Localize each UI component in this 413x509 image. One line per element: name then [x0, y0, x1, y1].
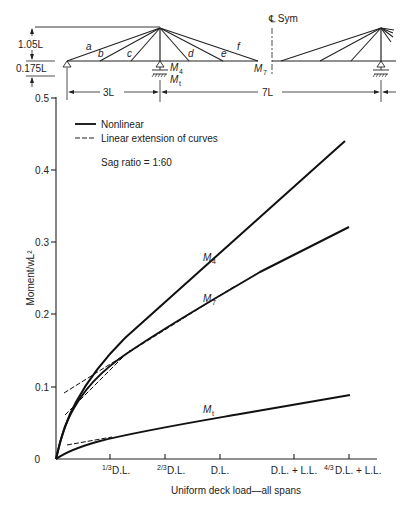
ytick-0: 0: [34, 454, 40, 465]
x-axis-label: Uniform deck load—all spans: [171, 485, 301, 496]
svg-text:7: 7: [263, 69, 267, 76]
svg-text:M: M: [170, 74, 179, 85]
svg-text:M: M: [170, 62, 179, 73]
ytick-0.5: 0.5: [35, 93, 49, 104]
figure-canvas: 1.05L 0.175L 3L 7L ℄ Sym a b c d e f M 4…: [0, 0, 413, 509]
sag-ratio-note: Sag ratio = 1:60: [101, 157, 172, 168]
span-main-label: 7L: [262, 87, 274, 98]
ytick-0.4: 0.4: [35, 165, 49, 176]
xtick-1-3-dl: 1/3 D.L.: [102, 464, 130, 476]
dim-deck-offset-label: 0.175L: [16, 63, 47, 74]
svg-text:D.L.: D.L.: [167, 465, 185, 476]
svg-text:7: 7: [212, 299, 216, 306]
xtick-4-3-dl-ll: 4/3 D.L. + L.L.: [324, 464, 381, 476]
svg-text:4: 4: [212, 258, 216, 265]
svg-text:D.L.: D.L.: [112, 465, 130, 476]
cable-b-label: b: [98, 48, 104, 59]
cable-c-label: c: [127, 48, 132, 59]
ytick-0.2: 0.2: [35, 309, 49, 320]
svg-text:M: M: [254, 63, 263, 74]
m4-curve: [56, 141, 345, 459]
cable-f-label: f: [237, 41, 241, 52]
xtick-dl-ll: D.L. + L.L.: [271, 465, 317, 476]
cable-d-label: d: [188, 48, 194, 59]
legend-nonlinear-label: Nonlinear: [101, 119, 144, 130]
centerline-sym-label: ℄ Sym: [268, 13, 298, 24]
svg-text:t: t: [179, 80, 181, 87]
legend-linear-extension-label: Linear extension of curves: [101, 133, 218, 144]
diagram-m7-label: M 7: [254, 63, 267, 76]
svg-text:M: M: [203, 252, 212, 263]
ytick-0.3: 0.3: [35, 237, 49, 248]
xtick-dl: D.L.: [211, 465, 229, 476]
svg-text:M: M: [203, 404, 212, 415]
cable-e-label: e: [221, 48, 227, 59]
legend: Nonlinear Linear extension of curves Sag…: [75, 119, 218, 168]
svg-text:4/3: 4/3: [324, 464, 334, 471]
bridge-diagram: [26, 27, 396, 102]
span-side-label: 3L: [103, 87, 115, 98]
xtick-2-3-dl: 2/3 D.L.: [157, 464, 185, 476]
svg-text:4: 4: [179, 68, 183, 75]
diagram-mt-label: M t: [170, 74, 181, 87]
mt-curve-label: M t: [203, 404, 214, 417]
chart-axes: [51, 97, 377, 459]
y-axis-label: Moment/wL²: [25, 250, 36, 306]
svg-text:D.L. + L.L.: D.L. + L.L.: [335, 465, 381, 476]
ytick-0.1: 0.1: [35, 382, 49, 393]
svg-text:M: M: [203, 293, 212, 304]
svg-text:2/3: 2/3: [157, 464, 167, 471]
svg-text:1/3: 1/3: [102, 464, 112, 471]
svg-text:t: t: [212, 410, 214, 417]
cable-a-label: a: [86, 41, 92, 52]
dim-tower-height-label: 1.05L: [18, 39, 43, 50]
